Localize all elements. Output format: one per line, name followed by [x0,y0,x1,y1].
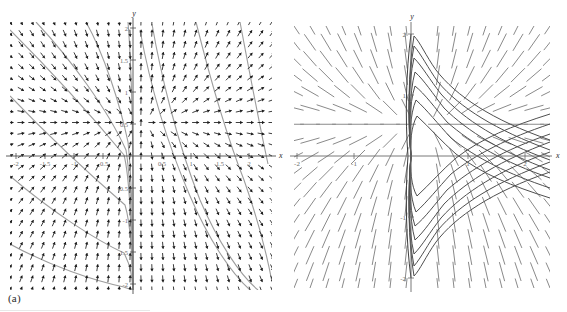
stream-segment [351,85,364,98]
stream-segment [301,105,319,110]
stream-segment [515,279,520,297]
field-arrow-head [43,110,46,113]
stream-segment [388,33,392,52]
field-arrow-head [273,121,276,124]
stream-segment [493,104,511,111]
field-arrow-head [139,224,142,227]
stream-segment [383,101,396,114]
field-arrow-head [272,98,275,101]
field-arrow-head [229,121,232,124]
stream-segment [388,197,392,216]
stream-segment [498,214,505,232]
stream-segment [336,166,348,181]
field-arrow-head [172,268,175,271]
stream-segment [323,246,330,264]
stream-segment [466,67,475,84]
field-arrow-shaft [173,19,174,26]
field-arrow-head [186,121,189,124]
stream-segment [499,246,505,264]
panel-a-ytick-3: -0.5 [118,185,128,192]
stream-segment [355,17,361,35]
stream-segment [496,68,508,83]
stream-segment [436,148,441,166]
stream-segment [322,18,331,35]
stream-segment [529,18,539,34]
field-arrow-head [118,164,121,167]
panel-a-caption: (a) [8,292,21,304]
panel-a-x-axis-label: x [278,151,283,160]
field-arrow-head [128,67,131,70]
stream-segment [467,50,474,68]
stream-segment [321,34,331,50]
stream-segment [483,17,489,35]
stream-segment [468,17,473,35]
stream-segment [372,230,376,249]
panel-a-ytick-1: -1.5 [118,249,128,256]
stream-segment [289,18,300,34]
panel-a-y-axis-label: y [131,9,136,18]
stream-segment [317,105,335,111]
stream-segment [356,246,361,264]
field-arrow-head [271,234,274,237]
field-arrow-head [183,30,186,33]
stream-segment [354,50,363,67]
field-arrow-head [139,235,142,238]
field-arrow-head [139,213,142,216]
field-arrow-head [129,164,132,167]
field-arrow-head [161,30,164,33]
stream-segment [288,199,300,214]
field-arrow-head [238,290,241,293]
field-arrow-head [161,201,164,204]
stream-segment [452,17,455,36]
stream-segment [285,106,303,111]
stream-segment [386,83,395,100]
field-arrow-head [175,121,178,124]
field-arrow-head [194,291,197,294]
stream-segment [350,104,367,112]
stream-segment [546,247,555,264]
stream-segment [513,34,523,50]
stream-segment [497,51,507,67]
stream-segment [462,103,478,114]
field-arrow-head [205,268,208,271]
stream-segment [543,52,556,65]
field-arrow-head [118,242,121,245]
field-arrow-head [107,56,110,59]
field-arrow-head [118,220,121,223]
panel-a-ytick-5: 1 [125,89,128,96]
stream-segment [511,68,524,81]
field-arrow-head [271,257,274,260]
field-arrow-head [139,97,142,100]
panel-b-xtick-3: 2 [523,160,527,168]
stream-segment [322,230,329,247]
panel-a-ytick-7: 2 [125,25,128,32]
stream-segment [498,198,507,215]
field-arrow-head [63,264,66,267]
field-arrow-head [139,269,142,272]
stream-segment [467,197,472,215]
stream-segment [305,18,315,34]
field-arrow-shaft [162,19,163,26]
stream-segment [307,279,313,297]
stream-segment [434,132,443,149]
field-arrow-head [118,45,121,48]
field-arrow-head [107,242,110,245]
stream-segment [304,183,317,197]
field-arrow-head [229,132,232,135]
stream-segment [514,214,523,231]
stream-segment [499,262,504,280]
stream-segment [368,84,379,99]
stream-segment [366,135,382,146]
panel-b-y-axis-label: y [409,12,414,21]
field-arrow-head [107,197,110,200]
stream-segment [335,86,350,98]
stream-segment [481,67,492,83]
stream-segment [483,213,489,231]
field-arrow-head [216,290,219,293]
field-arrow-head [240,121,243,124]
field-arrow-head [194,19,197,22]
field-arrow-head [240,132,243,135]
stream-segment [452,33,456,52]
panel-b-x-axis-label: x [555,151,560,160]
stream-segment [484,246,489,264]
